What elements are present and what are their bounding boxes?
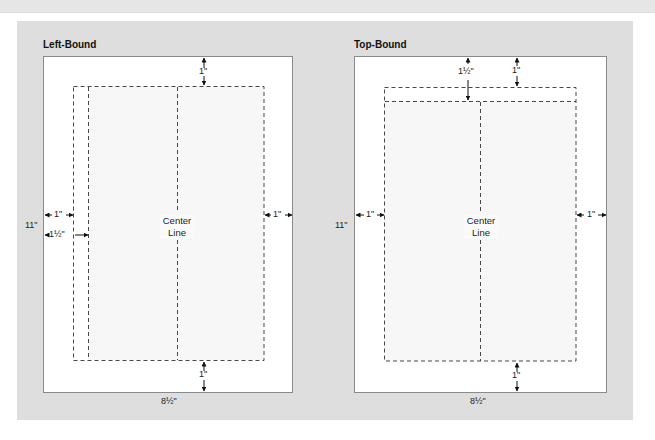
right-height-label: 11" — [335, 220, 348, 230]
right-top-margin-label: 1" — [512, 65, 520, 75]
right-binding-margin-label: 1½" — [458, 66, 474, 76]
center-label-line1: Center — [465, 215, 497, 227]
top-bound-drawing — [0, 0, 655, 440]
right-bottom-margin-label: 1" — [512, 370, 520, 380]
right-width-label: 8½" — [470, 396, 486, 406]
center-label-line2: Line — [465, 227, 497, 239]
right-right-margin-label: 1" — [587, 209, 595, 219]
right-center-line-label: Center Line — [464, 215, 498, 239]
right-left-margin-label: 1" — [366, 209, 374, 219]
